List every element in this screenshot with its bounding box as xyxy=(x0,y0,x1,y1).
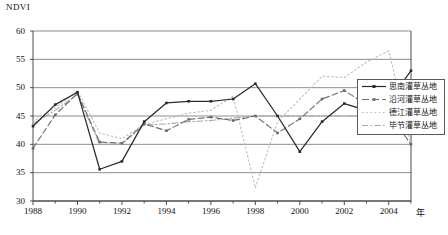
legend-item-bijie: 毕节灌草丛地 xyxy=(358,119,444,132)
data-point-marker xyxy=(343,102,346,105)
data-point-marker xyxy=(299,118,302,121)
legend-item-sinan: 思南灌草丛地 xyxy=(358,80,444,93)
data-point-marker xyxy=(54,114,57,117)
data-point-marker xyxy=(98,168,101,171)
data-point-marker xyxy=(410,69,413,72)
data-point-marker xyxy=(276,115,279,118)
data-point-marker xyxy=(210,116,213,119)
data-point-marker xyxy=(32,147,35,150)
data-series-layer xyxy=(32,51,413,188)
legend-swatch-dashed-icon xyxy=(361,94,387,105)
data-point-marker xyxy=(254,115,257,118)
data-point-marker xyxy=(187,118,190,121)
data-point-marker xyxy=(54,103,57,106)
legend-item-yanhe: 沿河灌草丛地 xyxy=(358,93,444,106)
data-point-marker xyxy=(321,120,324,123)
data-point-marker xyxy=(321,98,324,101)
legend-label-dejiang: 德江灌草丛地 xyxy=(387,108,437,118)
data-point-marker xyxy=(32,125,35,128)
legend-label-yanhe: 沿河灌草丛地 xyxy=(387,95,437,105)
ndvi-line-chart: NDVI 年 30354045505560 198819901992199419… xyxy=(0,0,448,235)
data-point-marker xyxy=(343,89,346,92)
gridlines xyxy=(33,31,411,201)
data-point-marker xyxy=(98,141,101,144)
data-point-marker xyxy=(121,142,124,145)
data-point-marker xyxy=(299,150,302,153)
data-point-marker xyxy=(254,82,257,85)
data-point-marker xyxy=(121,160,124,163)
data-point-marker xyxy=(143,120,146,123)
chart-legend: 思南灌草丛地 沿河灌草丛地 德江灌草丛地 毕节灌草丛地 xyxy=(357,79,445,135)
legend-item-dejiang: 德江灌草丛地 xyxy=(358,106,444,119)
legend-swatch-dashdot-icon xyxy=(361,120,387,131)
data-point-marker xyxy=(232,98,235,101)
data-point-marker xyxy=(210,100,213,103)
legend-swatch-solid-icon xyxy=(361,81,387,92)
data-point-marker xyxy=(187,100,190,103)
data-point-marker xyxy=(165,129,168,132)
legend-swatch-dotted-icon xyxy=(361,107,387,118)
data-point-marker xyxy=(410,143,413,146)
data-point-marker xyxy=(276,132,279,135)
axis-tickmarks xyxy=(30,31,411,205)
data-point-marker xyxy=(76,91,79,94)
legend-label-bijie: 毕节灌草丛地 xyxy=(387,121,437,131)
data-point-marker xyxy=(165,102,168,105)
data-point-marker xyxy=(232,119,235,122)
legend-label-sinan: 思南灌草丛地 xyxy=(387,82,437,92)
